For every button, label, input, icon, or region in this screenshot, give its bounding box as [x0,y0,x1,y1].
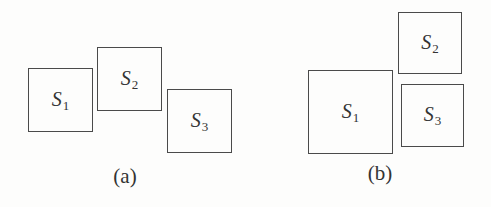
set-label-s1-b: S1 [342,101,360,124]
set-label-s3-b: S3 [424,104,442,127]
panel-caption-a: (a) [113,166,136,187]
set-label-s2-b: S2 [421,32,439,55]
set-box-s1-a: S1 [28,68,93,132]
set-label-s2-a: S2 [121,68,139,91]
panel-caption-b: (b) [368,163,393,184]
set-box-s2-a: S2 [97,47,162,111]
set-box-s1-b: S1 [308,70,393,154]
set-box-s3-a: S3 [167,89,232,153]
set-box-s2-b: S2 [398,12,462,74]
set-box-s3-b: S3 [401,84,464,147]
set-label-s3-a: S3 [191,110,209,133]
set-label-s1-a: S1 [52,89,70,112]
